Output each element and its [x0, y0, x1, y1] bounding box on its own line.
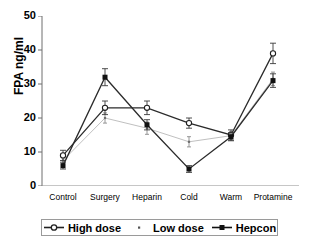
legend-item-label: Low dose: [153, 222, 204, 234]
y-tick-label: 20: [10, 111, 36, 123]
legend-marker-icon: [211, 219, 233, 237]
legend-item-hepcon[interactable]: Hepcon: [211, 219, 276, 237]
data-point-marker: [103, 75, 108, 80]
data-point-marker: [104, 117, 106, 119]
data-point-marker: [60, 153, 65, 158]
series-high-dose: [60, 43, 276, 160]
legend-marker-icon: [43, 219, 65, 237]
y-tick-label: 30: [10, 77, 36, 89]
plot-area: [38, 16, 300, 186]
x-tick-label: Protamine: [244, 192, 302, 202]
data-point-marker: [270, 51, 275, 56]
series-line: [63, 77, 273, 169]
legend-item-low-dose[interactable]: Low dose: [128, 219, 204, 237]
chart-canvas: [38, 16, 300, 186]
data-point-marker: [271, 78, 276, 83]
chart-legend: High doseLow doseHepcon: [41, 219, 278, 236]
y-tick-label: 10: [10, 145, 36, 157]
y-tick-label: 40: [10, 43, 36, 55]
series-hepcon: [60, 69, 276, 173]
data-point-marker: [188, 141, 190, 143]
data-point-marker: [144, 105, 149, 110]
legend-marker-icon: [128, 219, 150, 237]
data-point-marker: [229, 134, 234, 139]
chart-figure: FPA ng/ml High doseLow doseHepcon 010203…: [0, 0, 319, 241]
y-axis-label: FPA ng/ml: [12, 16, 28, 116]
series-line: [63, 53, 273, 155]
data-point-marker: [187, 167, 192, 172]
data-point-marker: [145, 122, 150, 127]
series-low-dose: [61, 72, 275, 164]
data-point-marker: [186, 121, 191, 126]
y-tick-label: 50: [10, 9, 36, 21]
data-point-marker: [61, 163, 66, 168]
y-tick-label: 0: [10, 179, 36, 191]
legend-item-label: Hepcon: [236, 222, 276, 234]
legend-item-label: High dose: [68, 222, 121, 234]
legend-item-high-dose[interactable]: High dose: [43, 219, 121, 237]
data-point-marker: [102, 105, 107, 110]
